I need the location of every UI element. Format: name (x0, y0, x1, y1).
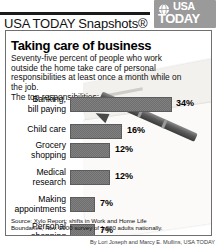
chart-row: Making appointments 7% (6, 195, 212, 219)
bar-label: Making appointments (6, 195, 66, 214)
chart-row: Banking, bill paying 34% (6, 95, 212, 119)
bar-track (70, 97, 172, 112)
bar-fill (70, 97, 172, 112)
bar-chart: Banking, bill paying 34% Child care 16% … (6, 95, 212, 236)
bar-fill (70, 124, 122, 139)
chart-headline: Taking care of business (11, 39, 151, 53)
bar-label-line2: bill paying (6, 105, 66, 115)
bar-label: Medical research (6, 168, 66, 187)
bar-fill (70, 197, 95, 212)
source-line-2: Boundaries, Nov. 2000 survey of 1,000 ad… (11, 224, 201, 231)
bar-label: Child care (6, 125, 66, 135)
bar-value: 7% (100, 198, 113, 208)
bar-label-line1: Child care (27, 124, 66, 134)
bar-track (70, 143, 110, 158)
chart-row: Child care 16% (6, 122, 212, 138)
masthead: USA TODAY Snapshots® USA TODAY (0, 0, 218, 30)
bar-label-line2: shopping (6, 151, 66, 161)
bar-label-line2: appointments (6, 205, 66, 215)
bar-label-line1: Making (38, 194, 66, 204)
bar-label-line1: Grocery (35, 140, 66, 150)
source-line-1: Source: Xylo Report; shifts in Work and … (11, 217, 147, 224)
bar-value: 16% (127, 125, 145, 135)
bar-label-line2: research (6, 178, 66, 188)
masthead-rule (0, 12, 150, 15)
bar-fill (70, 143, 110, 158)
bar-value: 34% (176, 98, 194, 108)
chart-row: Medical research 12% (6, 168, 212, 192)
bar-label-line1: Medical (36, 167, 66, 177)
bar-track (70, 124, 122, 139)
chart-source: Source: Xylo Report; shifts in Work and … (11, 217, 201, 231)
bar-value: 12% (115, 171, 133, 181)
bar-track (70, 197, 95, 212)
bar-label-line2: shopping (6, 232, 66, 236)
page-title: USA TODAY Snapshots® (4, 17, 147, 30)
logo-today-text: TODAY (158, 12, 200, 26)
bar-fill (70, 170, 110, 185)
usa-today-logo: USA TODAY (154, 0, 216, 28)
bar-track (70, 170, 110, 185)
bar-label: Banking, bill paying (6, 95, 66, 114)
bar-label-line1: Banking, (33, 94, 66, 104)
chart-credit: By Lori Joseph and Marcy E. Mullins, USA… (90, 239, 215, 246)
bar-value: 12% (115, 144, 133, 154)
bar-label: Grocery shopping (6, 141, 66, 160)
snapshot-panel: Taking care of business Seventy-five per… (5, 30, 212, 236)
chart-row: Grocery shopping 12% (6, 141, 212, 165)
